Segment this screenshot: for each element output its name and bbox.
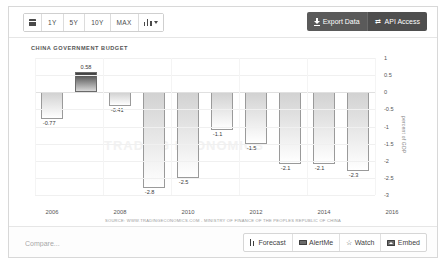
bar-chart-icon — [144, 19, 152, 26]
y-axis-title: percent of GDP — [401, 116, 407, 153]
export-data-button[interactable]: Export Data — [307, 12, 367, 31]
chart-area: CHINA GOVERNMENT BUDGET TRADING ECONOMIC… — [9, 38, 437, 227]
bar-label-2010: -2.5 — [171, 179, 205, 185]
bar-label-2013: -2.1 — [273, 165, 307, 171]
range-button-group: 1Y 5Y 10Y MAX — [23, 13, 164, 32]
gridline-vertical — [171, 58, 172, 195]
embed-label: Embed — [398, 239, 420, 246]
chart-widget: 1Y 5Y 10Y MAX Export Data ⇄ API Access C… — [8, 6, 438, 258]
x-tick-label: 2016 — [382, 209, 402, 215]
y-tick-label: 0.5 — [384, 72, 392, 78]
bar-2009[interactable] — [143, 92, 165, 188]
bar-label-2007: 0.58 — [69, 64, 103, 70]
bar-2014[interactable] — [313, 92, 335, 164]
gridline-vertical — [375, 58, 376, 195]
chart-footer: Forecast AlertMe ☆ Watch Embed — [9, 226, 437, 257]
y-tick-label: -3 — [384, 192, 389, 198]
chart-toolbar: 1Y 5Y 10Y MAX Export Data ⇄ API Access — [9, 7, 437, 38]
x-tick-label: 2014 — [314, 209, 334, 215]
range-button-1y[interactable]: 1Y — [42, 14, 64, 31]
chart-type-dropdown[interactable] — [139, 14, 163, 31]
gridline-vertical — [307, 58, 308, 195]
bar-2012[interactable] — [245, 92, 267, 143]
bar-2006[interactable] — [41, 92, 63, 118]
watch-label: Watch — [355, 239, 375, 246]
bar-label-2011: -1.1 — [205, 131, 239, 137]
forecast-button[interactable]: Forecast — [244, 234, 293, 251]
action-button-group: Export Data ⇄ API Access — [307, 12, 427, 31]
bar-label-2006: -0.77 — [35, 120, 69, 126]
bar-label-2012: -1.5 — [239, 145, 273, 151]
range-button-5y[interactable]: 5Y — [64, 14, 86, 31]
chevron-down-icon — [154, 21, 158, 24]
footer-button-group: Forecast AlertMe ☆ Watch Embed — [243, 233, 427, 252]
y-tick-label: -2 — [384, 158, 389, 164]
calendar-icon — [29, 19, 36, 26]
image-icon — [387, 240, 395, 246]
chart-title: CHINA GOVERNMENT BUDGET — [31, 45, 128, 51]
api-access-button[interactable]: ⇄ API Access — [367, 12, 427, 31]
range-button-max[interactable]: MAX — [111, 14, 139, 31]
bar-2015[interactable] — [347, 92, 369, 171]
gridline — [35, 75, 375, 76]
gridline — [35, 58, 375, 59]
bar-2010[interactable] — [177, 92, 199, 178]
watch-button[interactable]: ☆ Watch — [340, 234, 381, 251]
bar-2008[interactable] — [109, 92, 131, 106]
star-icon: ☆ — [346, 239, 352, 246]
compare-input[interactable] — [23, 234, 227, 252]
forecast-bars-icon — [250, 239, 256, 246]
embed-button[interactable]: Embed — [381, 234, 426, 251]
transfer-icon: ⇄ — [375, 18, 382, 25]
y-tick-label: 1 — [384, 55, 387, 61]
calendar-button[interactable] — [24, 14, 42, 31]
download-icon — [314, 18, 320, 25]
gridline — [35, 127, 375, 128]
bar-2013[interactable] — [279, 92, 301, 164]
x-tick-label: 2012 — [246, 209, 266, 215]
y-tick-label: -0.5 — [384, 106, 394, 112]
y-tick-label: 0 — [384, 89, 387, 95]
bar-label-2014: -2.1 — [307, 165, 341, 171]
x-tick-label: 2008 — [110, 209, 130, 215]
export-data-label: Export Data — [323, 18, 360, 25]
bar-2011[interactable] — [211, 92, 233, 130]
y-tick-label: -1.5 — [384, 141, 394, 147]
x-tick-label: 2006 — [42, 209, 62, 215]
gridline — [35, 144, 375, 145]
gridline — [35, 109, 375, 110]
chart-source: SOURCE: WWW.TRADINGECONOMICS.COM - MINIS… — [9, 218, 437, 223]
api-access-label: API Access — [385, 18, 420, 25]
gridline — [35, 178, 375, 179]
envelope-icon — [299, 240, 307, 246]
y-tick-label: -1 — [384, 124, 389, 130]
gridline-vertical — [35, 58, 36, 195]
gridline — [35, 161, 375, 162]
alertme-button[interactable]: AlertMe — [293, 234, 341, 251]
gridline-vertical — [103, 58, 104, 195]
gridline — [35, 92, 375, 93]
alertme-label: AlertMe — [309, 239, 333, 246]
x-tick-label: 2010 — [178, 209, 198, 215]
plot-canvas: -0.770.58-0.41-2.8-2.5-1.1-1.5-2.1-2.1-2… — [35, 58, 375, 195]
gridline-vertical — [239, 58, 240, 195]
range-button-10y[interactable]: 10Y — [85, 14, 110, 31]
gridline — [35, 195, 375, 196]
y-tick-label: -2.5 — [384, 175, 394, 181]
forecast-label: Forecast — [258, 239, 285, 246]
